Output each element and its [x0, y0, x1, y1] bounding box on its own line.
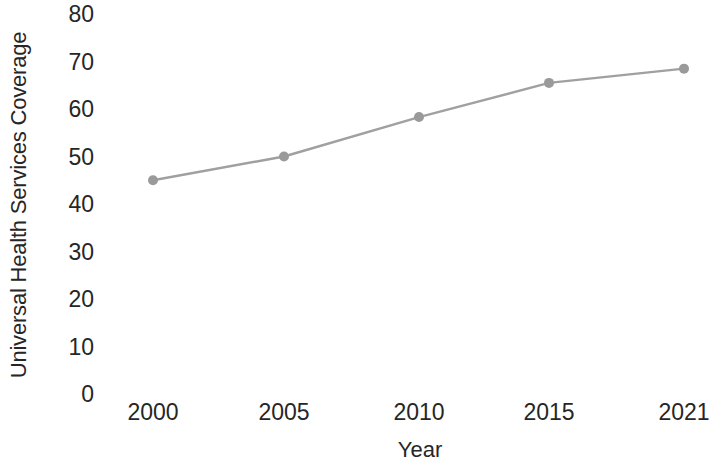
- x-tick-label: 2005: [258, 401, 309, 424]
- x-axis-title: Year: [398, 438, 442, 462]
- x-tick-label: 2021: [658, 401, 709, 424]
- x-tick-label: 2015: [523, 401, 574, 424]
- x-tick-label: 2010: [393, 401, 444, 424]
- x-tick-label: 2000: [127, 401, 178, 424]
